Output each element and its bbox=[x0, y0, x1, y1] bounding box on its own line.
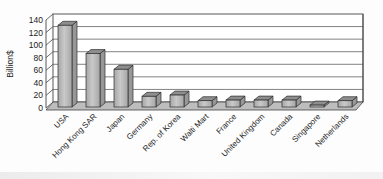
svg-text:120: 120 bbox=[29, 28, 43, 38]
x-label-france: France bbox=[214, 112, 238, 136]
bar-japan bbox=[114, 65, 133, 107]
bar-usa bbox=[58, 21, 77, 107]
bar-walti-mart bbox=[198, 97, 217, 107]
bar-germany bbox=[142, 92, 161, 107]
x-axis-labels: USAHong Kong SARJapanGermanyRep. of Kore… bbox=[51, 112, 351, 160]
x-label-walti-mart: Walti Mart bbox=[179, 112, 211, 144]
svg-text:20: 20 bbox=[34, 90, 44, 100]
svg-text:140: 140 bbox=[29, 15, 43, 25]
x-label-usa: USA bbox=[52, 112, 70, 130]
bar-rep-of-korea bbox=[170, 91, 189, 107]
y-axis-labels: 140120100806040200 bbox=[29, 15, 43, 113]
svg-text:80: 80 bbox=[34, 53, 44, 63]
bar-netherlands bbox=[338, 97, 357, 107]
svg-text:40: 40 bbox=[34, 78, 44, 88]
x-label-japan: Japan bbox=[105, 112, 127, 134]
bar-united-kingdom bbox=[254, 96, 273, 107]
chart-svg: 140120100806040200USAHong Kong SARJapanG… bbox=[0, 0, 383, 179]
bar-canada bbox=[282, 96, 301, 107]
bar-chart-3d: 140120100806040200USAHong Kong SARJapanG… bbox=[0, 0, 383, 179]
y-axis-title: Billion$ bbox=[5, 50, 15, 78]
x-label-canada: Canada bbox=[268, 112, 295, 139]
svg-text:100: 100 bbox=[29, 40, 43, 50]
y-axis-ticks bbox=[46, 14, 53, 108]
bar-france bbox=[226, 96, 245, 107]
svg-text:60: 60 bbox=[34, 65, 44, 75]
svg-text:0: 0 bbox=[38, 103, 43, 113]
bar-hong-kong-sar bbox=[86, 50, 105, 107]
